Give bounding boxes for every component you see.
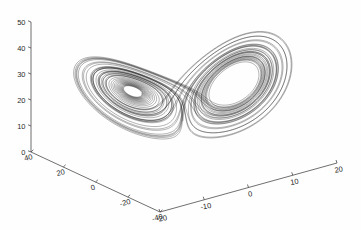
y-tick-label: 40 — [23, 152, 33, 163]
x-tick-label: 10 — [290, 177, 300, 187]
z-tick-label: 30 — [17, 70, 25, 79]
z-axis-tick — [28, 73, 31, 74]
x-tick-label: 0 — [247, 189, 253, 199]
y-tick-label: 0 — [90, 183, 96, 193]
lorenz-attractor-figure: 0102030405040200-20-40-20-1001020 — [0, 0, 361, 230]
z-axis-tick — [28, 47, 31, 48]
z-axis-tick — [28, 99, 31, 100]
x-axis-tick — [336, 160, 337, 163]
attractor-curve — [74, 31, 292, 139]
y-tick-label: -20 — [119, 197, 132, 208]
z-axis-tick — [28, 21, 31, 22]
z-tick-label: 20 — [17, 96, 25, 105]
x-tick-label: -20 — [156, 213, 168, 224]
x-axis-tick — [248, 185, 249, 188]
x-tick-label: -10 — [200, 201, 212, 212]
z-tick-label: 40 — [17, 44, 25, 53]
y-tick-label: 20 — [55, 167, 65, 178]
z-axis-tick — [28, 125, 31, 126]
z-tick-label: 10 — [17, 122, 25, 131]
y-axis-tick — [96, 180, 98, 182]
x-axis-tick — [203, 197, 204, 200]
lorenz-trajectory-path — [74, 31, 292, 139]
z-tick-label: 50 — [17, 18, 25, 27]
plot-canvas: 0102030405040200-20-40-20-1001020 — [0, 0, 361, 230]
x-axis-tick — [292, 172, 293, 175]
x-tick-label: 20 — [334, 164, 344, 174]
y-axis-tick — [63, 165, 65, 167]
